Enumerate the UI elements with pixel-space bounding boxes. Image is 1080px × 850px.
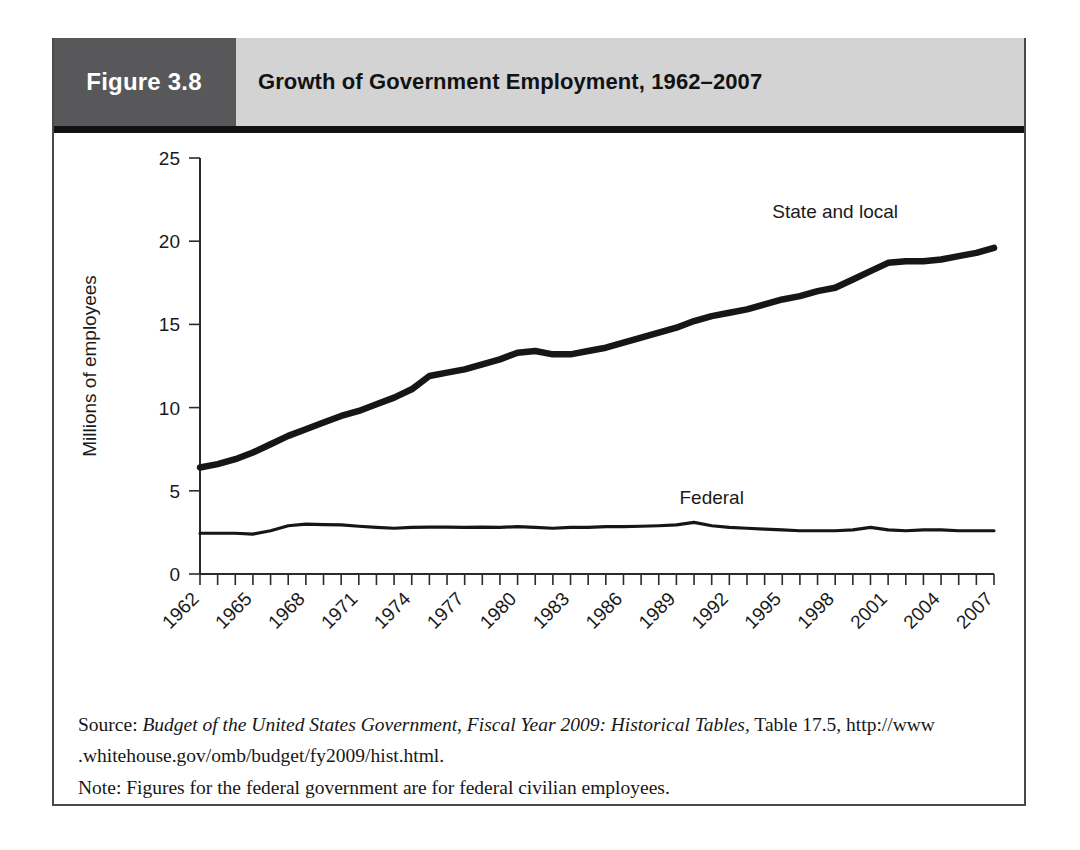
header-rule [52,126,1026,133]
y-tick-group [189,158,200,574]
y-tick-labels: 0510152025 [159,148,180,585]
y-tick-label: 20 [159,231,180,252]
frame-left-edge [52,38,54,133]
y-tick-label: 10 [159,398,180,419]
x-tick-label: 1980 [476,588,521,633]
source-line: Source: Budget of the United States Gove… [78,710,1000,741]
frame-right-edge [1024,38,1026,133]
series-label: Federal [679,487,743,508]
figure-header: Figure 3.8 Growth of Government Employme… [52,38,1026,126]
x-tick-label: 1971 [317,588,362,633]
data-series-group [200,248,994,534]
y-tick-label: 25 [159,148,180,169]
figure-number-block: Figure 3.8 [52,38,236,126]
x-tick-label: 1974 [370,588,415,633]
series-line [200,522,994,534]
source-prefix: Source: [78,714,142,735]
x-tick-labels: 1962196519681971197419771980198319861989… [158,588,997,633]
x-tick-label: 1962 [158,588,203,633]
y-tick-label: 5 [169,481,180,502]
y-tick-label: 15 [159,314,180,335]
x-tick-label: 1977 [423,588,468,633]
x-tick-label: 2007 [952,588,997,633]
line-chart: 0510152025 19621965196819711974197719801… [52,134,1026,694]
y-tick-label: 0 [169,564,180,585]
x-tick-label: 1968 [264,588,309,633]
series-label: State and local [772,201,898,222]
note-line: Note: Figures for the federal government… [78,773,1000,804]
figure-title: Growth of Government Employment, 1962–20… [258,69,762,95]
figure-title-block: Growth of Government Employment, 1962–20… [236,38,1026,126]
figure-number-label: Figure 3.8 [86,68,201,96]
x-tick-label: 1992 [687,588,732,633]
source-url-line: .whitehouse.gov/omb/budget/fy2009/hist.h… [78,741,1000,772]
x-tick-group [200,574,994,585]
x-tick-label: 2004 [899,588,944,633]
series-line [200,248,994,468]
series-label-group: State and localFederal [679,201,898,508]
x-tick-label: 1998 [793,588,838,633]
x-tick-label: 1983 [529,588,574,633]
figure-container: Figure 3.8 Growth of Government Employme… [52,38,1026,806]
x-tick-label: 1986 [582,588,627,633]
x-tick-label: 2001 [846,588,891,633]
figure-notes: Source: Budget of the United States Gove… [78,710,1000,803]
x-tick-label: 1965 [211,588,256,633]
source-title-italic: Budget of the United States Government, … [142,714,749,735]
x-tick-label: 1989 [634,588,679,633]
y-axis-title: Millions of employees [79,275,100,457]
source-tail: Table 17.5, http://www [750,714,935,735]
x-tick-label: 1995 [740,588,785,633]
